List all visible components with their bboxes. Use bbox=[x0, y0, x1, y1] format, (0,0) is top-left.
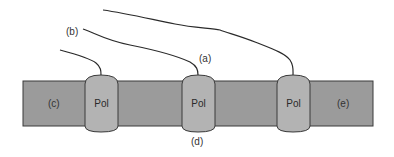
polymerase-label: Pol bbox=[94, 98, 108, 109]
label-c: (c) bbox=[48, 98, 60, 109]
label-a: (a) bbox=[199, 53, 211, 64]
polymerase-2: Pol bbox=[182, 75, 215, 132]
polymerase-label: Pol bbox=[286, 98, 300, 109]
polymerase-label: Pol bbox=[191, 98, 205, 109]
label-e: (e) bbox=[337, 98, 349, 109]
rna-transcript-short bbox=[60, 50, 101, 75]
label-b: (b) bbox=[66, 26, 78, 37]
polymerase-1: Pol bbox=[85, 75, 118, 132]
polymerase-3: Pol bbox=[277, 75, 310, 132]
label-d: (d) bbox=[191, 136, 203, 147]
rna-transcript-long bbox=[103, 10, 293, 75]
transcription-diagram: Pol Pol Pol (a) (b) (c) (d) (e) bbox=[0, 0, 394, 157]
